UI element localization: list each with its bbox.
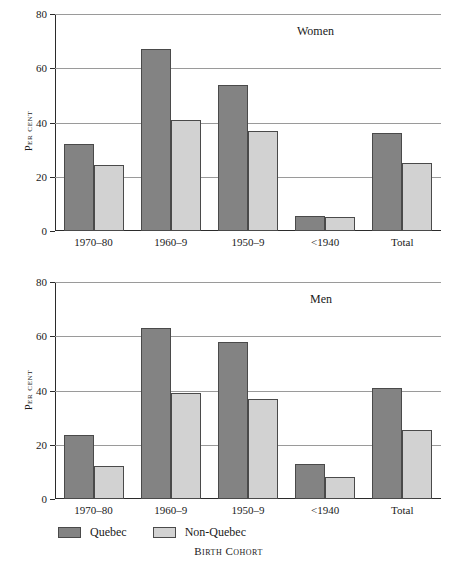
bar-women-nonquebec-3[interactable] [325, 217, 355, 231]
bar-women-nonquebec-0[interactable] [94, 165, 124, 231]
tick-label-0-women: 0 [42, 225, 48, 237]
bar-men-quebec-3[interactable] [295, 464, 325, 499]
bar-women-quebec-3[interactable] [295, 216, 325, 231]
bar-women-quebec-2[interactable] [218, 85, 248, 231]
legend-label-quebec: Quebec [90, 525, 127, 540]
x-tick-label-women-1: 1960–9 [141, 236, 201, 248]
x-tick-label-men-0: 1970–80 [64, 504, 124, 516]
y-axis-title-men: Per cent [23, 370, 34, 410]
bar-men-nonquebec-2[interactable] [248, 399, 278, 499]
bar-group-women-1 [141, 14, 201, 231]
tick-0-men [50, 499, 55, 500]
tick-label-80-men: 80 [36, 276, 47, 288]
bar-men-nonquebec-0[interactable] [94, 466, 124, 499]
bar-women-quebec-0[interactable] [64, 144, 94, 231]
bar-group-men-3 [295, 282, 355, 499]
bar-men-quebec-1[interactable] [141, 328, 171, 499]
bar-group-women-2 [218, 14, 278, 231]
x-tick-label-women-0: 1970–80 [64, 236, 124, 248]
x-tick-label-men-3: <1940 [295, 504, 355, 516]
bar-women-quebec-1[interactable] [141, 49, 171, 231]
legend-label-nonquebec: Non-Quebec [185, 525, 246, 540]
tick-label-40-men: 40 [36, 385, 47, 397]
legend-swatch-nonquebec-icon [153, 527, 176, 538]
bar-men-quebec-4[interactable] [372, 388, 402, 499]
tick-label-20-men: 20 [36, 439, 47, 451]
y-axis-title-women: Per cent [23, 111, 34, 151]
bar-men-nonquebec-4[interactable] [402, 430, 432, 499]
bar-women-nonquebec-1[interactable] [171, 120, 201, 231]
tick-0-women [50, 231, 55, 232]
bar-men-nonquebec-1[interactable] [171, 393, 201, 499]
bar-group-women-0 [64, 14, 124, 231]
x-tick-label-women-4: Total [372, 236, 432, 248]
tick-label-40-women: 40 [36, 117, 47, 129]
bar-group-men-2 [218, 282, 278, 499]
chart-panel-men: Per cent Men 80 60 40 20 0 [0, 270, 457, 510]
legend-swatch-quebec-icon [58, 527, 81, 538]
x-tick-label-men-1: 1960–9 [141, 504, 201, 516]
tick-label-60-women: 60 [36, 62, 47, 74]
legend-item-quebec[interactable]: Quebec [58, 525, 127, 540]
x-tick-labels-women: 1970–80 1960–9 1950–9 <1940 Total [55, 236, 441, 248]
bar-group-men-1 [141, 282, 201, 499]
plot-area-men: 80 60 40 20 0 [55, 282, 441, 499]
bar-group-men-4 [372, 282, 432, 499]
chart-legend: Quebec Non-Quebec [58, 525, 272, 540]
chart-page: Per cent Women 80 60 40 20 0 [0, 0, 457, 564]
x-tick-label-men-2: 1950–9 [218, 504, 278, 516]
bar-groups-women [55, 14, 441, 231]
chart-panel-women: Per cent Women 80 60 40 20 0 [0, 0, 457, 262]
bar-men-nonquebec-3[interactable] [325, 477, 355, 499]
x-axis-title: Birth Cohort [0, 545, 457, 557]
bar-men-quebec-2[interactable] [218, 342, 248, 499]
tick-label-80-women: 80 [36, 8, 47, 20]
bar-group-women-4 [372, 14, 432, 231]
legend-item-nonquebec[interactable]: Non-Quebec [153, 525, 246, 540]
tick-label-0-men: 0 [42, 493, 48, 505]
x-tick-label-women-2: 1950–9 [218, 236, 278, 248]
plot-area-women: 80 60 40 20 0 [55, 14, 441, 231]
x-tick-label-women-3: <1940 [295, 236, 355, 248]
bar-women-quebec-4[interactable] [372, 133, 402, 231]
bar-group-men-0 [64, 282, 124, 499]
bar-women-nonquebec-4[interactable] [402, 163, 432, 231]
tick-label-20-women: 20 [36, 171, 47, 183]
x-tick-label-men-4: Total [372, 504, 432, 516]
tick-label-60-men: 60 [36, 330, 47, 342]
bar-women-nonquebec-2[interactable] [248, 131, 278, 231]
bar-group-women-3 [295, 14, 355, 231]
x-tick-labels-men: 1970–80 1960–9 1950–9 <1940 Total [55, 504, 441, 516]
bar-groups-men [55, 282, 441, 499]
bar-men-quebec-0[interactable] [64, 435, 94, 499]
